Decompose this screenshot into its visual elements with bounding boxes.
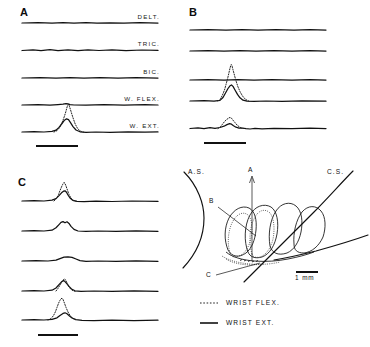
panel-b-letter: B xyxy=(189,6,197,18)
emg-label-tric-a: TRIC. xyxy=(100,40,160,47)
label-central-sulcus: C.S. xyxy=(327,168,344,175)
panel-a: A DELT. TRIC. BIC. W. FLEX. W. EXT. xyxy=(0,0,182,160)
trace-b-wext xyxy=(190,124,326,129)
emg-label-delt-a: DELT. xyxy=(100,13,160,20)
trace-c-wext-flex xyxy=(48,298,77,320)
arcuate-sulcus-line xyxy=(183,172,204,268)
trace-c-delt xyxy=(22,191,158,202)
panel-b: B xyxy=(182,0,370,160)
figure-root: A DELT. TRIC. BIC. W. FLEX. W. EXT. B xyxy=(0,0,370,347)
map-site-label-c: C xyxy=(206,271,212,278)
map-site-label-b: B xyxy=(209,197,215,204)
trace-b-wflex xyxy=(190,85,326,101)
trace-b-bic xyxy=(190,80,326,81)
contour-flex-3 xyxy=(222,256,280,264)
emg-label-wext-a: W. EXT. xyxy=(92,122,160,129)
legend-label-wrist-flex: WRIST FLEX. xyxy=(226,299,280,306)
legend-label-wrist-ext: WRIST EXT. xyxy=(226,319,274,326)
label-arcuate-sulcus: A.S. xyxy=(188,168,205,175)
trace-a-delt xyxy=(22,23,158,24)
trace-b-tric xyxy=(190,51,326,52)
trace-a-tric xyxy=(22,50,158,51)
map-scalebar-label: 1 mm xyxy=(295,274,315,281)
pointer-line-b xyxy=(218,207,256,236)
emg-label-bic-a: BIC. xyxy=(100,68,160,75)
trace-a-wflex xyxy=(22,104,158,106)
trace-b-wflex-flex xyxy=(218,65,249,102)
panel-c-traces xyxy=(0,160,182,347)
panel-a-letter: A xyxy=(20,6,28,18)
emg-label-wflex-a: W. FLEX. xyxy=(92,95,160,102)
panel-c-letter: C xyxy=(18,176,26,188)
panel-b-traces xyxy=(182,0,370,160)
panel-a-traces xyxy=(0,0,182,160)
sulcus-branch-line xyxy=(274,235,368,260)
map-site-label-a: A xyxy=(248,166,254,173)
trace-c-tric xyxy=(22,222,158,232)
cortical-map-drawing xyxy=(182,160,370,347)
trace-b-delt xyxy=(190,30,326,31)
contour-ext-4 xyxy=(294,207,325,253)
trace-a-bic xyxy=(22,78,158,79)
trace-c-wext xyxy=(22,313,158,321)
trace-c-bic xyxy=(22,257,158,262)
trace-c-wflex xyxy=(22,281,158,292)
cortical-map-panel: A.S. C.S. A B C xyxy=(182,160,370,347)
central-sulcus-line xyxy=(244,171,353,282)
panel-c: C xyxy=(0,160,182,347)
